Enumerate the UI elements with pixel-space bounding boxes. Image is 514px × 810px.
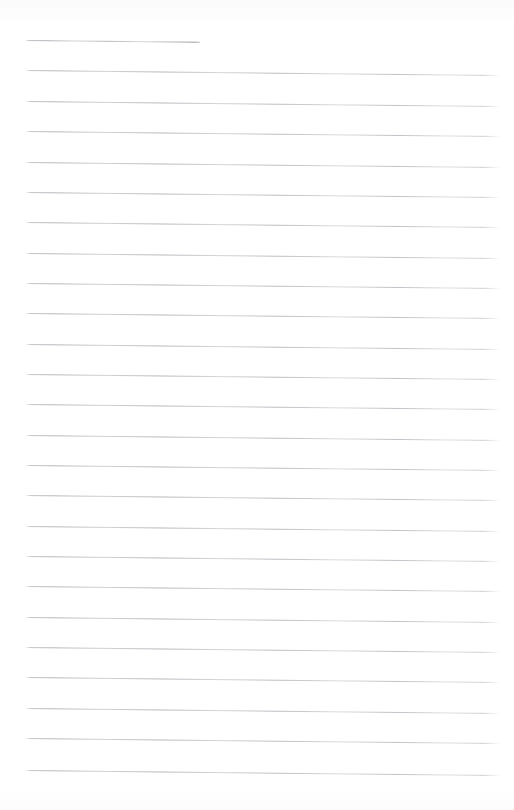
ruled-line — [25, 465, 500, 471]
ruled-line-ink — [25, 465, 500, 471]
ruled-line-ink — [25, 313, 500, 319]
ruled-line — [25, 162, 500, 168]
ruled-line-ink — [25, 192, 500, 198]
ruled-line — [25, 526, 500, 532]
ruled-line — [25, 101, 500, 107]
ruled-line-ink — [25, 101, 500, 107]
ruled-line-ink — [25, 253, 500, 259]
ruled-line — [25, 344, 500, 350]
ruled-line — [25, 283, 500, 289]
ruled-line-ink — [25, 374, 500, 380]
ruled-line-ink — [25, 556, 500, 562]
ruled-line-ink — [25, 283, 500, 289]
ruled-line — [25, 40, 200, 43]
ruled-lines-layer — [0, 0, 514, 810]
ruled-line-ink — [25, 708, 500, 714]
ruled-line — [25, 374, 500, 380]
ruled-line-ink — [25, 738, 500, 744]
ruled-line — [25, 313, 500, 319]
ruled-line — [25, 586, 500, 592]
ruled-line-ink — [25, 404, 500, 410]
ruled-line — [25, 770, 500, 776]
lined-paper-page — [0, 0, 514, 810]
ruled-line-ink — [25, 131, 500, 137]
ruled-line — [25, 708, 500, 714]
ruled-line-ink — [25, 435, 500, 441]
ruled-line — [25, 70, 500, 76]
ruled-line — [25, 131, 500, 137]
ruled-line — [25, 647, 500, 653]
ruled-line-ink — [25, 222, 500, 228]
ruled-line — [25, 495, 500, 501]
ruled-line-ink — [25, 344, 500, 350]
ruled-line — [25, 556, 500, 562]
ruled-line — [25, 617, 500, 623]
ruled-line-ink — [25, 770, 500, 776]
ruled-line-ink — [25, 586, 500, 592]
ruled-line-ink — [25, 40, 200, 43]
ruled-line-ink — [25, 162, 500, 168]
ruled-line — [25, 738, 500, 744]
ruled-line-ink — [25, 70, 500, 76]
ruled-line — [25, 404, 500, 410]
ruled-line-ink — [25, 647, 500, 653]
ruled-line-ink — [25, 526, 500, 532]
ruled-line — [25, 192, 500, 198]
ruled-line-ink — [25, 617, 500, 623]
ruled-line — [25, 677, 500, 683]
ruled-line-ink — [25, 495, 500, 501]
ruled-line — [25, 435, 500, 441]
ruled-line-ink — [25, 677, 500, 683]
ruled-line — [25, 253, 500, 259]
ruled-line — [25, 222, 500, 228]
